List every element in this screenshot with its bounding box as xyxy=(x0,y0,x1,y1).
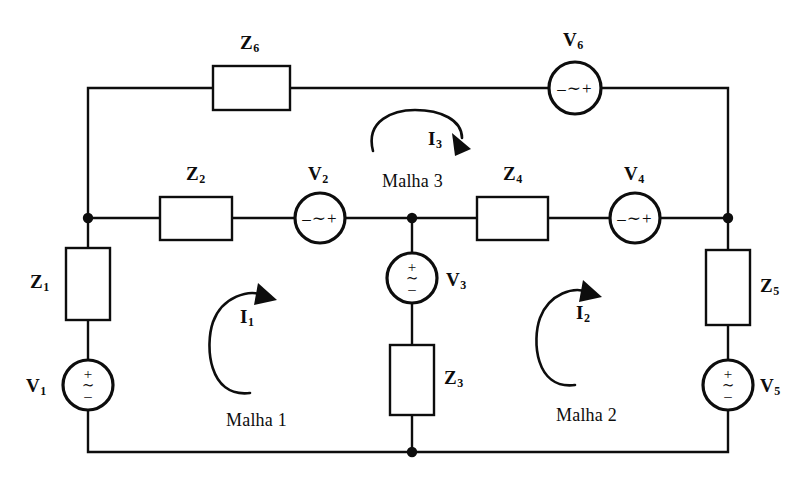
junction-dot-right xyxy=(723,213,733,223)
impedance-label-z2: Z2 xyxy=(186,164,205,185)
source-label-v4: V4 xyxy=(624,164,644,185)
source-circle-v5 xyxy=(703,360,753,410)
source-circle-v3 xyxy=(387,253,437,303)
impedance-box-z4 xyxy=(477,197,548,240)
source-label-v5: V5 xyxy=(760,376,780,397)
schematic-drawing xyxy=(0,0,806,480)
impedance-box-z5 xyxy=(706,250,750,325)
mesh-current-label-i1: I1 xyxy=(240,307,254,328)
impedance-label-z6: Z6 xyxy=(240,33,259,54)
circuit-diagram: –∼+ –∼+ –∼+ +∼– +∼– +∼– Z6 Z2 Z4 Z1 Z3 Z… xyxy=(0,0,806,480)
source-circle-v2 xyxy=(295,193,345,243)
mesh-current-arrow-i1 xyxy=(209,283,277,393)
impedance-box-z6 xyxy=(213,66,290,110)
junction-dot-center xyxy=(407,213,417,223)
impedance-box-z3 xyxy=(390,345,434,415)
junction-dot-left xyxy=(83,213,93,223)
source-circle-v6 xyxy=(549,62,601,114)
impedance-label-z1: Z1 xyxy=(30,272,49,293)
source-label-v2: V2 xyxy=(308,164,328,185)
mesh-label-malha-2: Malha 2 xyxy=(556,406,617,424)
impedance-label-z3: Z3 xyxy=(444,368,463,389)
source-label-v1: V1 xyxy=(26,376,46,397)
mesh-current-arrow-i2 xyxy=(536,280,602,385)
source-circle-v1 xyxy=(63,360,113,410)
mesh-current-arrow-i3 xyxy=(372,110,471,156)
source-label-v3: V3 xyxy=(446,270,466,291)
mesh-current-label-i3: I3 xyxy=(428,129,442,150)
impedance-box-z2 xyxy=(160,197,232,240)
mesh-label-malha-1: Malha 1 xyxy=(226,411,287,429)
source-circle-v4 xyxy=(610,193,660,243)
mesh-current-label-i2: I2 xyxy=(576,303,590,324)
mesh-label-malha-3: Malha 3 xyxy=(382,172,443,190)
impedance-label-z4: Z4 xyxy=(503,164,522,185)
impedance-box-z1 xyxy=(66,248,110,320)
source-label-v6: V6 xyxy=(563,30,583,51)
junction-dot-bottom xyxy=(407,447,417,457)
impedance-label-z5: Z5 xyxy=(760,276,779,297)
